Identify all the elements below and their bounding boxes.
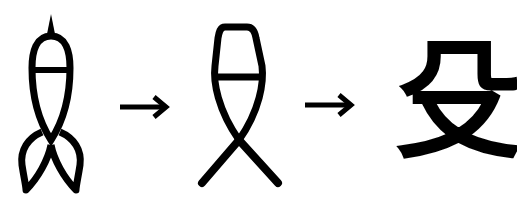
- seal-script-glyph: [180, 0, 300, 199]
- arrow-icon: [303, 90, 358, 120]
- arrow-icon: [118, 92, 173, 122]
- oracle-bone-glyph: [0, 0, 120, 199]
- modern-character: 殳: [395, 22, 515, 182]
